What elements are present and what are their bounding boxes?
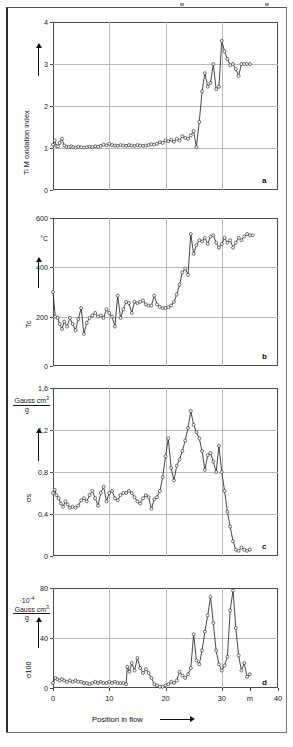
data-point bbox=[99, 314, 102, 317]
data-point bbox=[170, 304, 173, 307]
data-point bbox=[248, 548, 251, 551]
data-point bbox=[223, 50, 226, 53]
data-point bbox=[61, 137, 64, 140]
data-point bbox=[192, 130, 195, 133]
data-point bbox=[206, 614, 209, 617]
data-point bbox=[74, 506, 77, 509]
data-point bbox=[184, 677, 187, 680]
panel-b: °C Tc b 0200400600 bbox=[0, 200, 293, 380]
data-point bbox=[189, 134, 192, 137]
data-point bbox=[127, 144, 130, 147]
data-point bbox=[52, 291, 55, 294]
data-point bbox=[105, 144, 108, 147]
panel-d: ·10-4 Gauss cm3 g σ100 d 0102030m40 Posi… bbox=[0, 578, 293, 747]
data-point bbox=[201, 450, 204, 453]
data-point bbox=[243, 235, 246, 238]
data-point bbox=[217, 444, 220, 447]
data-point bbox=[105, 308, 108, 311]
data-point bbox=[232, 589, 235, 592]
data-point bbox=[122, 144, 125, 147]
data-point bbox=[203, 630, 206, 633]
data-point bbox=[167, 306, 170, 309]
data-point bbox=[147, 672, 150, 675]
data-point bbox=[64, 500, 67, 503]
data-point bbox=[206, 454, 209, 457]
data-point bbox=[195, 431, 198, 434]
data-point bbox=[99, 492, 102, 495]
data-point bbox=[156, 303, 159, 306]
data-point bbox=[56, 316, 59, 319]
data-point bbox=[195, 244, 198, 247]
data-point bbox=[220, 242, 223, 245]
data-point bbox=[102, 316, 105, 319]
data-point bbox=[130, 662, 133, 665]
panel-a: Ti M oxidation index a 01234 bbox=[0, 0, 293, 200]
data-point bbox=[220, 669, 223, 672]
data-point bbox=[144, 494, 147, 497]
data-point bbox=[153, 498, 156, 501]
data-point bbox=[237, 236, 240, 239]
data-point bbox=[66, 325, 69, 328]
data-point bbox=[139, 667, 142, 670]
data-series-a bbox=[0, 0, 293, 200]
data-point bbox=[53, 139, 56, 142]
data-point bbox=[167, 683, 170, 686]
data-point bbox=[187, 273, 190, 276]
data-point bbox=[147, 496, 150, 499]
data-point bbox=[133, 669, 136, 672]
data-point bbox=[195, 146, 198, 149]
data-point bbox=[201, 649, 204, 652]
panel-c: Gauss cm3 g σs c 00,40,81,21,6 bbox=[0, 380, 293, 578]
data-point bbox=[195, 659, 198, 662]
data-point bbox=[88, 145, 91, 148]
data-point bbox=[91, 489, 94, 492]
data-point bbox=[237, 654, 240, 657]
data-point bbox=[172, 682, 175, 685]
data-point bbox=[212, 460, 215, 463]
data-point bbox=[212, 234, 215, 237]
data-point bbox=[102, 485, 105, 488]
data-point bbox=[229, 609, 232, 612]
data-point bbox=[201, 90, 204, 93]
data-point bbox=[217, 85, 220, 88]
data-point bbox=[108, 311, 111, 314]
data-point bbox=[223, 664, 226, 667]
data-point bbox=[74, 329, 77, 332]
data-point bbox=[217, 663, 220, 666]
data-point bbox=[153, 294, 156, 297]
data-point bbox=[167, 140, 170, 143]
data-point bbox=[187, 137, 190, 140]
data-point bbox=[97, 504, 100, 507]
data-point bbox=[128, 670, 131, 673]
data-point bbox=[130, 144, 133, 147]
data-point bbox=[178, 139, 181, 142]
data-point bbox=[119, 316, 122, 319]
data-point bbox=[170, 466, 173, 469]
data-point bbox=[172, 140, 175, 143]
data-point bbox=[58, 141, 61, 144]
data-point bbox=[85, 500, 88, 503]
data-point bbox=[175, 293, 178, 296]
data-point bbox=[130, 311, 133, 314]
data-series-c bbox=[0, 380, 293, 578]
data-point bbox=[192, 252, 195, 255]
data-point bbox=[91, 314, 94, 317]
data-point bbox=[209, 81, 212, 84]
data-point bbox=[240, 669, 243, 672]
data-point bbox=[198, 663, 201, 666]
data-point bbox=[215, 241, 218, 244]
data-point bbox=[144, 668, 147, 671]
data-point bbox=[62, 505, 65, 508]
data-point bbox=[52, 682, 55, 685]
data-point bbox=[248, 63, 251, 66]
data-point bbox=[52, 492, 55, 495]
data-point bbox=[136, 500, 139, 503]
data-point bbox=[80, 146, 83, 149]
data-point bbox=[150, 143, 153, 146]
data-point bbox=[170, 138, 173, 141]
data-point bbox=[198, 437, 201, 440]
series-line bbox=[53, 411, 250, 551]
data-point bbox=[82, 146, 85, 149]
data-point bbox=[234, 627, 237, 630]
data-point bbox=[113, 497, 116, 500]
